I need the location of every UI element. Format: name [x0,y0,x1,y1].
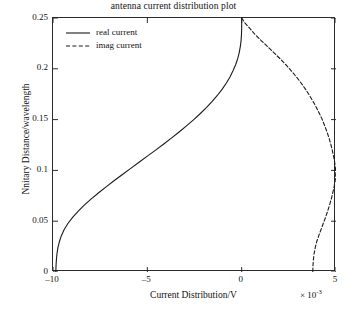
series-line-imag-current [242,18,336,272]
chart-title: antenna current distribution plot [0,1,347,11]
x-tick-label: 0 [221,275,261,284]
chart-figure: antenna current distribution plot 00.050… [0,0,347,314]
x-axis-tick-labels: –10–505 [0,275,347,291]
x-tick-label: –10 [32,275,72,284]
legend-item-real-current: real current [65,26,142,39]
series-line-real-current [56,18,242,272]
y-tick-label: 0.25 [2,13,48,22]
y-axis-label: Nnitary Distance/wavelength [21,59,31,219]
chart-legend: real current imag current [61,24,148,55]
y-axis-ticks [53,18,336,272]
solid-line-icon [65,29,91,37]
x-axis-label: Current Distribution/V [52,290,335,300]
plot-area: real current imag current [52,17,335,271]
plot-canvas [53,18,336,272]
data-series-group [56,18,336,272]
x-tick-label: –5 [126,275,166,284]
x-axis-exponent: × 10-3 [300,288,322,300]
legend-label-real-current: real current [96,28,137,37]
legend-label-imag-current: imag current [96,41,142,50]
exponent-power: -3 [316,288,321,295]
legend-item-imag-current: imag current [65,39,142,52]
dashed-line-icon [65,42,91,50]
x-axis-ticks [53,18,336,272]
x-tick-label: 5 [315,275,347,284]
exponent-base: × 10 [300,290,316,300]
